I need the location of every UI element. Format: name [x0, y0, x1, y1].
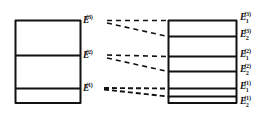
label-left-E1: E(1) [83, 82, 93, 94]
left-level-box [15, 20, 81, 104]
label-right-E2-1: E2(1) [240, 95, 251, 108]
connector-E1-to-E2-1 [104, 90, 168, 97]
label-right-E1-1: E1(1) [240, 80, 251, 93]
label-right-E1-3: E1(3) [240, 11, 251, 24]
label-left-E2: E(2) [83, 49, 93, 61]
diagram-canvas [0, 0, 272, 116]
connector-E2-to-E1-2 [107, 55, 168, 57]
connector-E3-to-E2-3 [107, 23, 168, 37]
right-level-lines [168, 21, 237, 97]
label-right-E2-3: E2(3) [240, 28, 251, 41]
connector-E2-to-E2-2 [107, 58, 168, 72]
label-right-E1-2: E1(2) [240, 48, 251, 61]
correlation-lines [104, 21, 168, 97]
label-left-E3: E(3) [83, 14, 93, 26]
label-right-E2-2: E2(2) [240, 63, 251, 76]
energy-level-diagram: E(3) E(2) E(1) E1(3) E2(3) E1(2) E2(2) E… [0, 0, 272, 116]
connector-E1-to-E1-1 [104, 88, 168, 89]
right-level-box [168, 20, 237, 104]
left-level-lines [15, 21, 81, 89]
